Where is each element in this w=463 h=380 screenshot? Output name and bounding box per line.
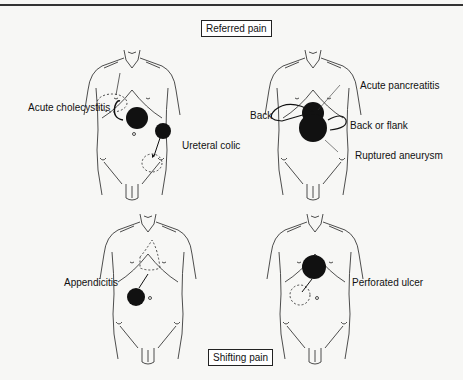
label-back-or-flank: Back or flank bbox=[350, 120, 408, 131]
label-back: Back bbox=[250, 110, 272, 121]
label-ruptured-aneurysm: Ruptured aneurysm bbox=[355, 150, 443, 161]
label-perforated-ulcer: Perforated ulcer bbox=[352, 277, 423, 288]
torso-bottom-left bbox=[100, 214, 196, 364]
torso-bottom-right bbox=[267, 214, 363, 364]
referred-pain-title: Referred pain bbox=[201, 20, 272, 37]
label-appendicitis: Appendicitis bbox=[64, 277, 118, 288]
bottom-left-markings bbox=[127, 240, 160, 306]
label-ureteral-colic: Ureteral colic bbox=[182, 140, 240, 151]
shifting-pain-title: Shifting pain bbox=[208, 349, 273, 366]
top-left-markings bbox=[97, 73, 171, 172]
label-acute-pancreatitis: Acute pancreatitis bbox=[360, 80, 440, 91]
bottom-right-markings bbox=[290, 255, 326, 305]
figure-drawing bbox=[0, 0, 463, 380]
label-acute-cholecystitis: Acute cholecystitis bbox=[28, 102, 110, 113]
